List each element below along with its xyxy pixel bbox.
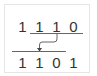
bottom-digit-4: 1 bbox=[65, 55, 82, 70]
bottom-binary-row: 1 1 0 1 bbox=[14, 55, 82, 70]
bottom-digit-2: 1 bbox=[31, 55, 48, 70]
shift-arrow-icon bbox=[40, 34, 58, 49]
arrowhead-icon bbox=[37, 48, 42, 52]
bottom-digit-3: 0 bbox=[48, 55, 65, 70]
bottom-digit-1: 1 bbox=[14, 55, 31, 70]
